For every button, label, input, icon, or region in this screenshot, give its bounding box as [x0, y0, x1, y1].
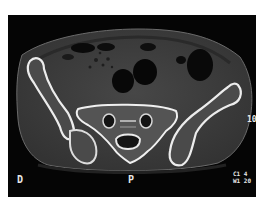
pelvis-ct-graphic — [8, 15, 256, 197]
ct-scan-image: D P 10 C1 4 W1 20 — [8, 15, 256, 197]
window-width-value: 20 — [244, 177, 251, 184]
window-center-label: C1 — [233, 170, 240, 177]
scale-marker: 10 — [247, 116, 256, 124]
window-width-label: W1 — [233, 177, 240, 184]
window-width-info: W1 20 — [233, 178, 251, 184]
orientation-label-left: D — [17, 175, 23, 185]
orientation-label-posterior: P — [128, 175, 134, 185]
window-center-value: 4 — [244, 170, 248, 177]
